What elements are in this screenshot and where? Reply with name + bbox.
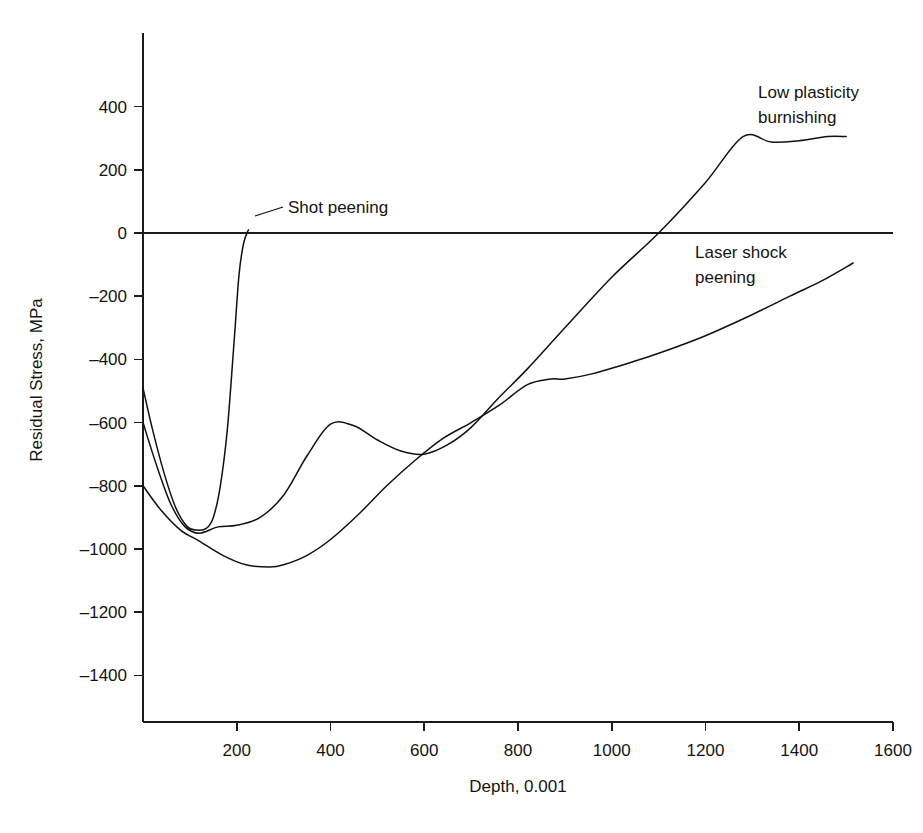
data-series-group: [143, 135, 853, 568]
y-tick-label-400: 400: [99, 98, 127, 117]
y-axis-ticks: [134, 107, 143, 676]
laser-shock-peening-label-line2: peening: [695, 268, 756, 287]
x-tick-label-1200: 1200: [687, 741, 725, 760]
y-axis-title: Residual Stress, MPa: [27, 298, 46, 462]
y-tick-label--800: –800: [89, 477, 127, 496]
y-tick-label--1400: –1400: [80, 666, 127, 685]
y-tick-label--1200: –1200: [80, 603, 127, 622]
low-plasticity-burnishing-label-line1: Low plasticity: [758, 83, 860, 102]
x-tick-label-200: 200: [223, 741, 251, 760]
series-shot-peening: [143, 230, 248, 530]
y-tick-label--1000: –1000: [80, 540, 127, 559]
y-tick-label--600: –600: [89, 414, 127, 433]
y-tick-label-0: 0: [118, 224, 127, 243]
shot-peening-label: Shot peening: [288, 198, 388, 217]
x-tick-label-400: 400: [316, 741, 344, 760]
residual-stress-chart: 4002000–200–400–600–800–1000–1200–1400 2…: [0, 0, 923, 833]
chart-canvas: 4002000–200–400–600–800–1000–1200–1400 2…: [0, 0, 923, 833]
x-tick-label-600: 600: [410, 741, 438, 760]
x-axis-tick-labels: 2004006008001000120014001600: [223, 741, 912, 760]
y-tick-label--400: –400: [89, 350, 127, 369]
y-tick-label-200: 200: [99, 161, 127, 180]
low-plasticity-burnishing-label-line2: burnishing: [758, 108, 836, 127]
x-tick-label-1000: 1000: [593, 741, 631, 760]
x-tick-label-1600: 1600: [874, 741, 912, 760]
x-axis-ticks: [237, 722, 893, 731]
shot-peening-leader-line: [255, 207, 283, 216]
x-tick-label-800: 800: [504, 741, 532, 760]
series-low-plasticity-burnishing: [143, 135, 846, 534]
x-axis-title: Depth, 0.001: [469, 777, 566, 796]
laser-shock-peening-label-line1: Laser shock: [695, 243, 787, 262]
x-tick-label-1400: 1400: [780, 741, 818, 760]
y-tick-label--200: –200: [89, 287, 127, 306]
y-axis-tick-labels: 4002000–200–400–600–800–1000–1200–1400: [80, 98, 127, 686]
